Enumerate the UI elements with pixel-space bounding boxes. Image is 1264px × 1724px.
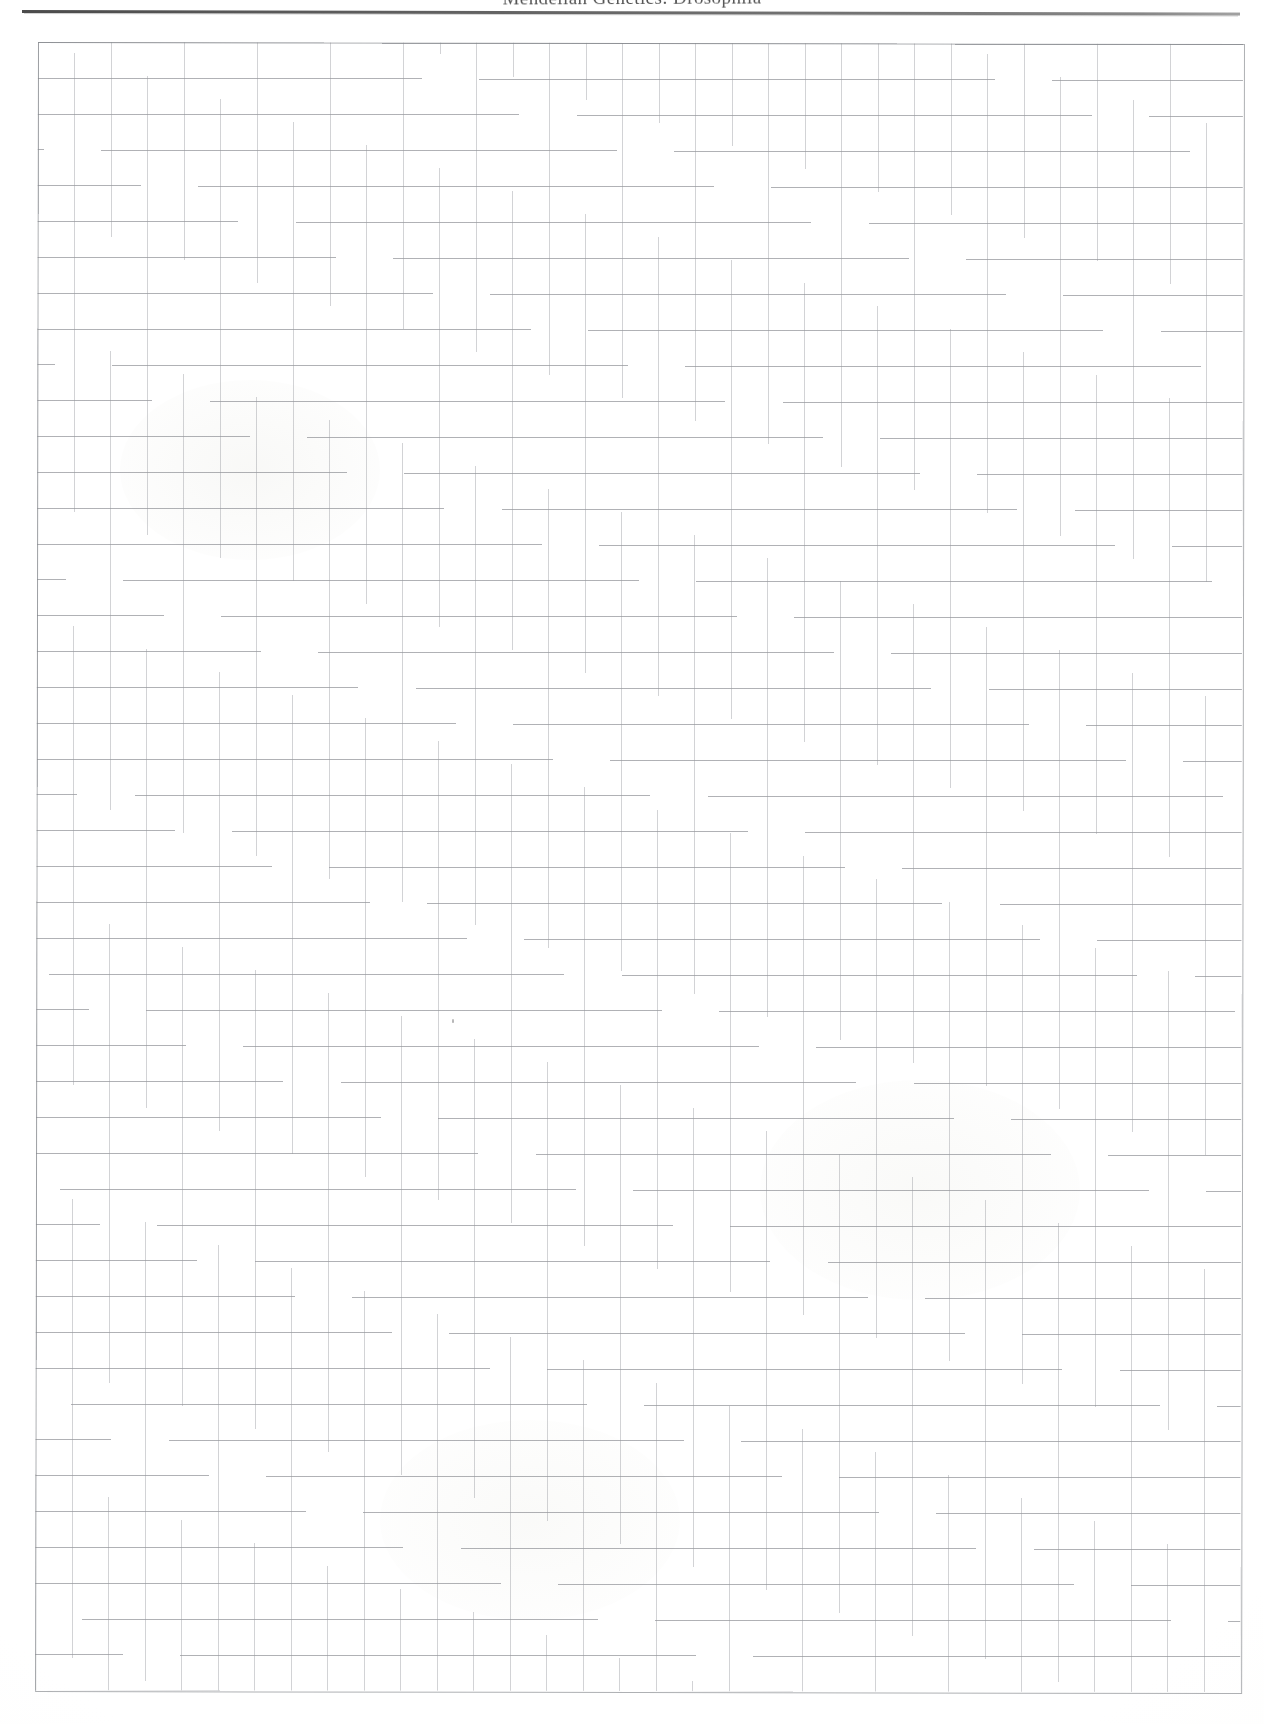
graph-paper-grid bbox=[35, 42, 1243, 1692]
notebook-page: Mendelian Genetics: Drosophila bbox=[0, 0, 1264, 1724]
grid-outer-border bbox=[35, 41, 1245, 1693]
faint-pencil-speck bbox=[452, 1019, 454, 1023]
